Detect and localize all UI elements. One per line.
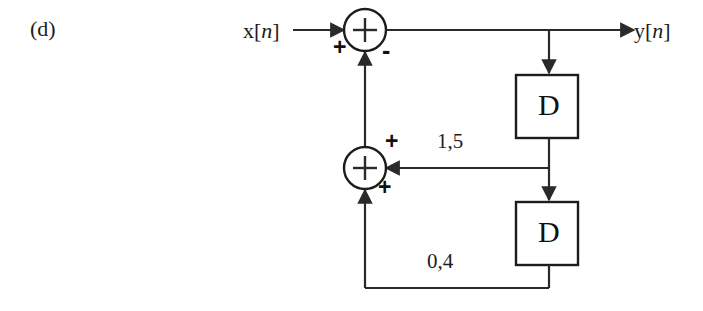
output-signal-index: n — [652, 18, 663, 43]
input-signal-index: n — [261, 18, 272, 43]
output-signal-label: y[n] — [634, 18, 671, 44]
input-signal-name: x — [243, 18, 254, 43]
output-signal-name: y — [634, 18, 645, 43]
input-signal-label: x[n] — [243, 18, 280, 44]
adder-middle-input-sign-bottom: + — [378, 176, 391, 199]
input-bracket-close: ] — [272, 18, 279, 43]
delay-block-1-label: D — [538, 88, 560, 122]
figure-canvas: (d) x[n] y[n] + - + + 1,5 0,4 D D — [0, 0, 703, 311]
part-label: (d) — [30, 16, 56, 42]
output-bracket-close: ] — [663, 18, 670, 43]
block-diagram — [0, 0, 703, 311]
adder-top-input-sign-bottom: - — [382, 38, 390, 63]
delay-block-2-label: D — [538, 215, 560, 249]
coefficient-label-lower: 0,4 — [427, 249, 453, 274]
adder-top-input-sign-left: + — [333, 36, 346, 59]
coefficient-label-upper: 1,5 — [437, 129, 463, 154]
adder-middle-input-sign-right: + — [385, 130, 398, 153]
